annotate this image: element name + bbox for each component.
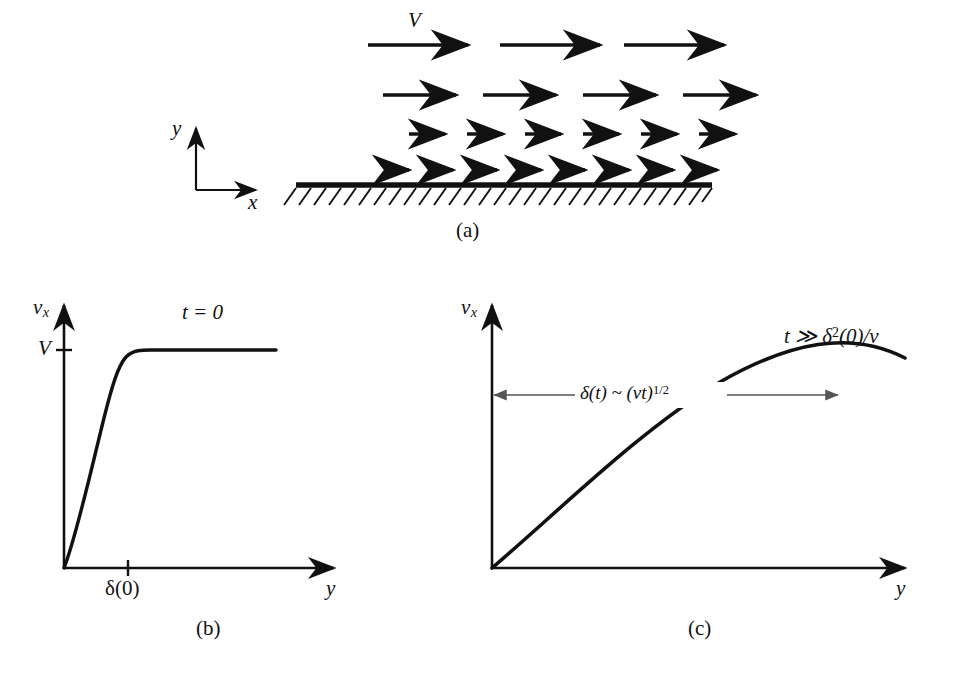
panel-c-velocity-curve xyxy=(492,343,905,568)
panel-b-x-tick-label: δ(0) xyxy=(105,578,139,599)
panel-a-free-stream-label: V xyxy=(408,10,421,31)
panel-c-thickness-label-prefix: δ(t) ~ (νt) xyxy=(580,382,653,403)
figure-root: V y x (a) vx V δ(0) y t = 0 (b) vx y t ≫… xyxy=(0,0,955,680)
panel-c-thickness-label-superscript: 1/2 xyxy=(653,383,669,397)
panel-a-wall xyxy=(284,185,712,205)
panel-b-chart xyxy=(56,305,334,576)
panel-b-velocity-curve xyxy=(64,350,276,568)
panel-c-curve-label-prefix: t ≫ δ xyxy=(784,324,832,348)
panel-c-thickness-label: δ(t) ~ (νt)1/2 xyxy=(580,383,669,402)
panel-c-y-axis-label: vx xyxy=(461,297,477,319)
panel-c-curve-label: t ≫ δ2(0)/ν xyxy=(784,326,879,347)
panel-c-x-axis-label: y xyxy=(896,578,905,599)
panel-a-x-axis-label: x xyxy=(248,192,257,213)
panel-c-curve-label-superscript: 2 xyxy=(832,325,839,340)
panel-b-x-axis-label: y xyxy=(326,578,335,599)
panel-a-caption: (a) xyxy=(456,220,479,241)
wall-hatching xyxy=(284,188,712,205)
panel-b-caption: (b) xyxy=(196,618,221,639)
panel-b-y-axis-label-subscript: x xyxy=(43,304,49,320)
panel-b-curve-label: t = 0 xyxy=(182,302,223,323)
panel-b-y-tick-label: V xyxy=(38,338,51,359)
panel-a-flow-diagram xyxy=(196,45,756,205)
panel-b-y-axis-label-base: v xyxy=(33,295,42,319)
panel-c-y-axis-label-subscript: x xyxy=(471,304,477,320)
panel-a-coordinate-axes xyxy=(196,128,256,190)
panel-a-y-axis-label: y xyxy=(172,118,181,139)
panel-c-curve-label-suffix: (0)/ν xyxy=(839,324,879,348)
panel-c-caption: (c) xyxy=(688,618,711,639)
panel-c-y-axis-label-base: v xyxy=(461,295,470,319)
panel-b-y-axis-label: vx xyxy=(33,297,49,319)
